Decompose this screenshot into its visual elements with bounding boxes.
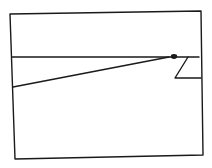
outer-frame: [10, 11, 203, 159]
line-drawing: [0, 0, 212, 168]
diagram-canvas: [0, 0, 212, 168]
dot-marker: [171, 54, 177, 59]
diagonal-line: [13, 57, 169, 87]
z-shaped-bracket: [175, 57, 201, 78]
